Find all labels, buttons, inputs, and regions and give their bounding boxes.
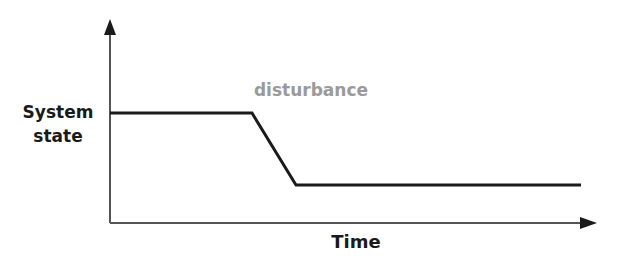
x-axis-arrow-icon — [580, 217, 597, 229]
y-axis-arrow-icon — [104, 19, 116, 35]
system-state-line — [110, 113, 581, 185]
x-axis-label: Time — [310, 231, 402, 252]
y-axis-label-line-2: state — [20, 124, 96, 148]
y-axis-label-line-1: System — [20, 100, 96, 124]
disturbance-annotation: disturbance — [246, 80, 376, 100]
y-axis-label: System state — [20, 100, 96, 148]
